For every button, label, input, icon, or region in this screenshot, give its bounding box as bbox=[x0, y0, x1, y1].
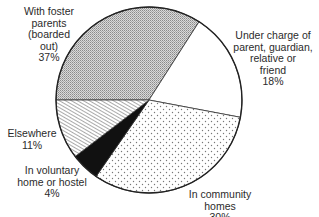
label-voluntary-home: In voluntary home or hostel 4% bbox=[12, 165, 92, 200]
label-elsewhere: Elsewhere 11% bbox=[2, 128, 62, 151]
label-foster-parents: With foster parents (boarded out) 37% bbox=[18, 6, 80, 64]
label-parent-guardian: Under charge of parent, guardian, relati… bbox=[229, 30, 317, 88]
label-community-homes: In community homes 30% bbox=[180, 189, 260, 217]
